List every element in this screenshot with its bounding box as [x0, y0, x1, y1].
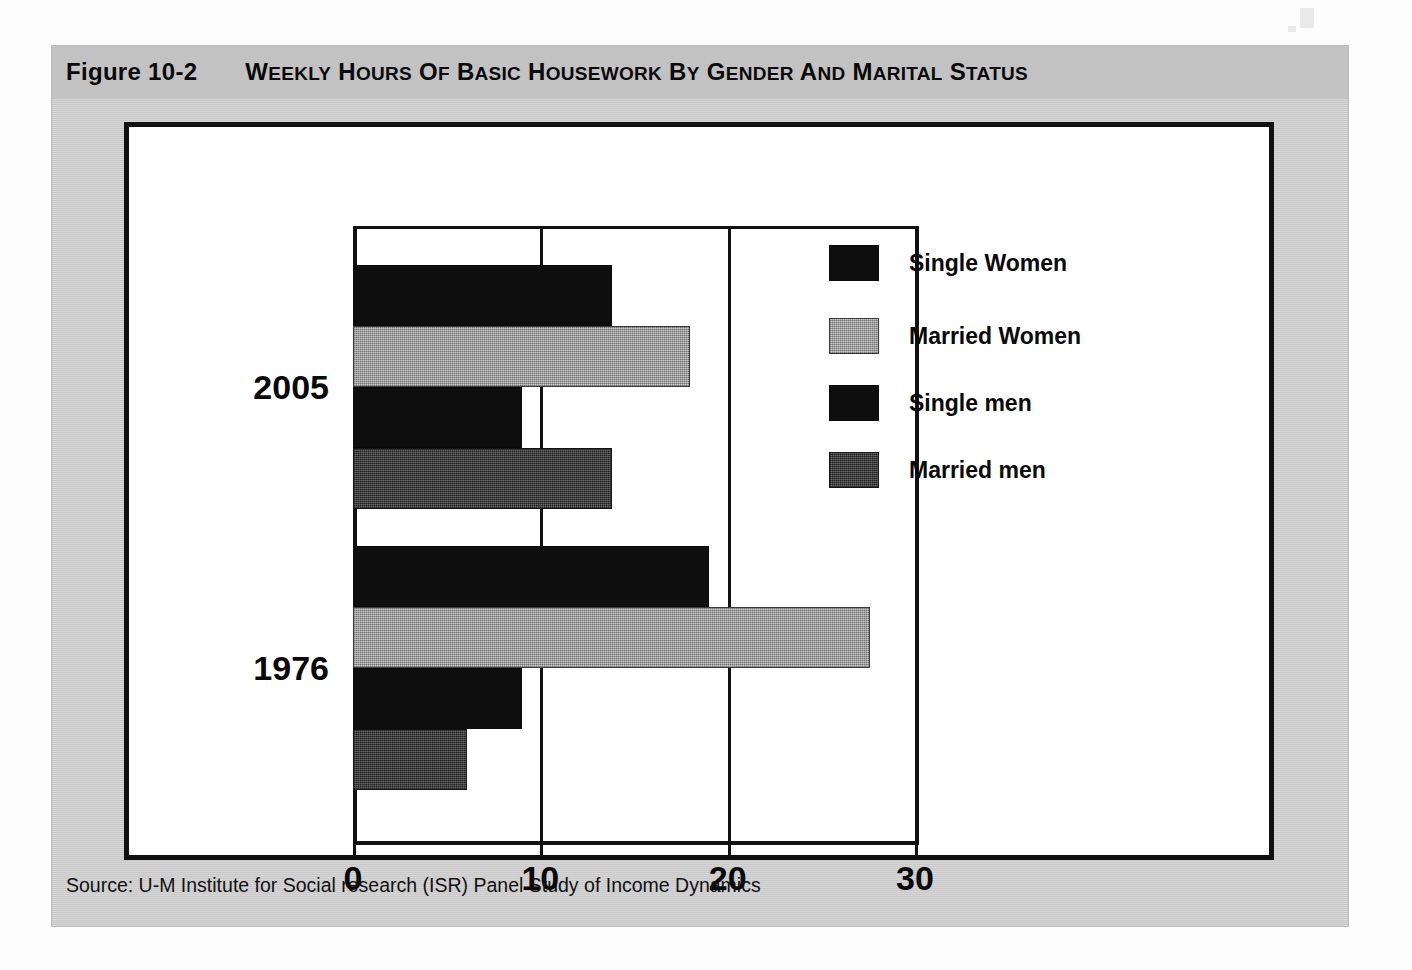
legend-label: Married men: [909, 457, 1046, 484]
bar-2005-single-men: [353, 387, 522, 448]
bar-2005-married-women: [353, 326, 690, 387]
scan-artifact: [1300, 8, 1314, 28]
bar-1976-single-men: [353, 668, 522, 729]
chart-plot-area: 0102030 20051976 Single WomenMarried Wom…: [124, 122, 1274, 860]
scan-artifact: [1288, 26, 1296, 32]
tick-20: [728, 839, 731, 857]
x-axis: [353, 841, 919, 845]
tick-10: [540, 839, 543, 857]
bar-1976-married-men: [353, 729, 467, 790]
bar-1976-single-women: [353, 546, 709, 607]
legend-item-single-women: Single Women: [829, 245, 1067, 281]
legend-label: Single Women: [909, 250, 1067, 277]
tick-0: [353, 839, 356, 857]
legend-item-married-women: Married Women: [829, 318, 1081, 354]
legend-item-single-men: Single men: [829, 385, 1032, 421]
scanned-page: Figure 10-2 WEEKLY HOURS OF BASIC HOUSEW…: [0, 0, 1412, 970]
figure-number: Figure 10-2: [66, 58, 197, 85]
bar-2005-married-men: [353, 448, 612, 509]
figure-title: Figure 10-2 WEEKLY HOURS OF BASIC HOUSEW…: [66, 58, 1028, 86]
legend-swatch-dark-gray: [829, 452, 879, 488]
legend-swatch-light-gray: [829, 318, 879, 354]
legend-swatch-black: [829, 385, 879, 421]
x-tick-label: 30: [896, 859, 934, 898]
bar-2005-single-women: [353, 265, 612, 326]
figure-source: Source: U-M Institute for Social researc…: [66, 874, 761, 897]
category-label-2005: 2005: [253, 368, 329, 407]
gridline-20: [728, 226, 731, 841]
category-label-1976: 1976: [253, 649, 329, 688]
bar-1976-married-women: [353, 607, 870, 668]
legend-item-married-men: Married men: [829, 452, 1046, 488]
figure-card: Figure 10-2 WEEKLY HOURS OF BASIC HOUSEW…: [52, 46, 1348, 926]
legend-swatch-black: [829, 245, 879, 281]
figure-title-text: WEEKLY HOURS OF BASIC HOUSEWORK BY GENDE…: [245, 58, 1028, 85]
plot-top-border: [353, 226, 919, 229]
legend-label: Married Women: [909, 323, 1081, 350]
tick-30: [915, 839, 918, 857]
legend-label: Single men: [909, 390, 1032, 417]
figure-header-band: Figure 10-2 WEEKLY HOURS OF BASIC HOUSEW…: [52, 46, 1348, 99]
